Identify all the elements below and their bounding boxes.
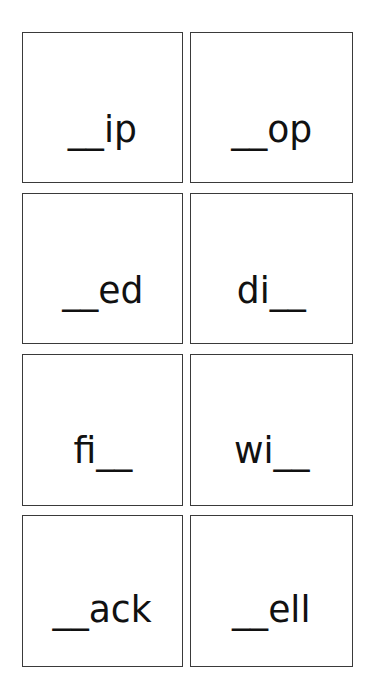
word-card-op: __op [190,32,353,183]
card-word: __op [231,110,312,148]
word-card-ack: __ack [22,515,183,667]
card-word: __ack [53,590,152,628]
word-card-wi: wi__ [190,354,353,506]
card-word: di__ [237,271,306,309]
word-card-fi: fi__ [22,354,183,506]
card-word: __ed [62,271,143,309]
card-word: fi__ [73,431,132,469]
word-card-ell: __ell [190,515,353,667]
card-word: wi__ [234,431,310,469]
word-card-ip: __ip [22,32,183,183]
card-word: __ell [232,590,310,628]
word-card-sheet: __ip __op __ed di__ fi__ wi__ __ack __el… [0,0,370,694]
word-card-ed: __ed [22,193,183,344]
card-word: __ip [68,110,137,148]
word-card-di: di__ [190,193,353,344]
